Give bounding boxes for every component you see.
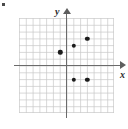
x-axis-label: x [120,70,125,80]
corner-bullet-mark [2,3,5,6]
y-axis-arrow-icon [63,8,71,14]
y-axis-line [66,12,67,118]
plot-area: x y [19,18,114,113]
coordinate-plane-figure: x y [0,0,128,129]
x-axis-arrow-icon [120,61,126,69]
x-axis-line [14,65,121,66]
y-axis-label: y [55,7,59,17]
